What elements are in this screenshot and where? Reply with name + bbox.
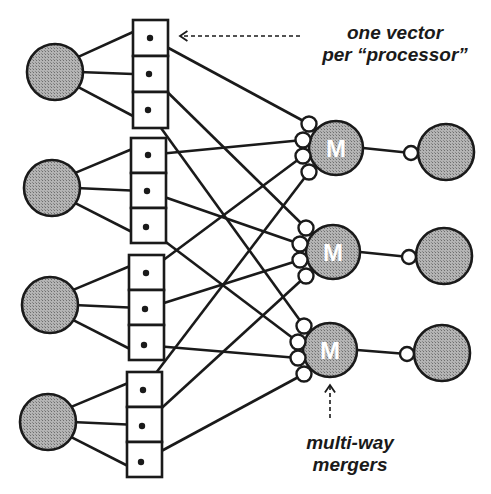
vector-to-merger-line <box>142 276 306 426</box>
merge-network-diagram: MMM <box>0 0 491 494</box>
merger-label: M <box>323 239 343 266</box>
vector-dot <box>145 152 151 158</box>
processor-link-line <box>79 87 133 116</box>
vector-to-merger-line <box>146 156 303 273</box>
processor-node-3 <box>22 277 78 333</box>
vector-dot <box>146 71 152 77</box>
annotation-line: multi-way <box>280 432 420 454</box>
processor-link-line <box>79 32 133 57</box>
merger-input-port <box>296 149 311 164</box>
vector-dot <box>138 459 144 465</box>
processor-link-line <box>76 203 131 231</box>
merger-input-port <box>296 133 311 148</box>
vector-cell <box>129 325 164 360</box>
processor-link-line <box>76 188 131 191</box>
processor-link-line <box>74 305 129 308</box>
vector-dot <box>144 188 150 194</box>
processor-link-line <box>74 267 129 290</box>
vector-cell <box>127 442 162 477</box>
annotation-line: mergers <box>280 454 420 476</box>
merger-label: M <box>326 135 346 162</box>
vector-to-merger-line <box>144 345 298 358</box>
merger-input-port <box>293 237 308 252</box>
vector-dot <box>143 270 149 276</box>
output-port <box>404 146 418 160</box>
processor-link-line <box>72 437 127 465</box>
processor-nodes <box>20 44 83 450</box>
merger-input-port <box>299 221 314 236</box>
annotation-line: per “processor” <box>300 44 490 66</box>
processor-node-1 <box>27 44 83 100</box>
merger-input-port <box>291 335 306 350</box>
vector-dot <box>142 306 148 312</box>
output-port <box>402 250 416 264</box>
annotation-one-vector-per-processor: one vector per “processor” <box>300 22 490 66</box>
vector-groups <box>127 20 168 477</box>
processor-link-line <box>72 384 127 407</box>
processor-node-4 <box>20 394 76 450</box>
annotation-line: one vector <box>300 22 490 44</box>
processor-link-line <box>76 150 131 173</box>
merger-input-port <box>297 367 312 382</box>
merger-nodes: MMM <box>291 117 364 382</box>
output-node-3 <box>414 325 470 381</box>
merger-input-port <box>302 165 317 180</box>
vector-dot <box>145 107 151 113</box>
output-node-2 <box>416 228 472 284</box>
output-node-1 <box>418 124 474 180</box>
merger-input-port <box>291 351 306 366</box>
vector-dot <box>139 423 145 429</box>
output-port <box>400 347 414 361</box>
vector-dot <box>141 342 147 348</box>
vector-dot <box>147 35 153 41</box>
merger-input-port <box>302 117 317 132</box>
merger-input-port <box>297 319 312 334</box>
vector-dot <box>143 224 149 230</box>
processor-link-line <box>79 72 133 74</box>
processor-link-line <box>74 320 129 348</box>
annotation-multi-way-mergers: multi-way mergers <box>280 432 420 476</box>
vector-dot <box>140 387 146 393</box>
vector-to-merger-line <box>150 38 309 124</box>
merger-label: M <box>320 337 340 364</box>
processor-link-line <box>72 422 127 425</box>
merger-input-port <box>299 269 314 284</box>
merger-input-port <box>293 253 308 268</box>
processor-node-2 <box>24 160 80 216</box>
output-nodes <box>400 124 474 381</box>
